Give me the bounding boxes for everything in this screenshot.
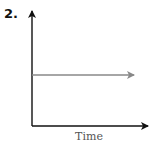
- x-axis-label: Time: [72, 131, 106, 142]
- chart-plot-area: [0, 0, 154, 146]
